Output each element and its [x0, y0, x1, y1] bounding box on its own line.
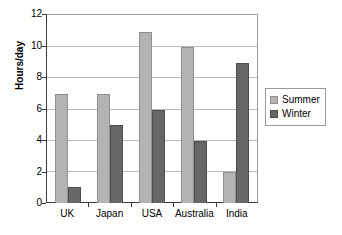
bar-japan-summer	[97, 94, 110, 203]
bar-group	[89, 15, 131, 203]
y-axis-tick-marks	[0, 14, 46, 203]
bar-group	[47, 15, 89, 203]
x-axis-label-usa: USA	[131, 208, 173, 219]
bar-usa-summer	[139, 32, 152, 203]
chart-legend: SummerWinter	[265, 88, 326, 126]
x-axis-tick-mark	[173, 203, 174, 207]
x-axis-tick-mark	[216, 203, 217, 207]
x-axis-tick-mark	[131, 203, 132, 207]
x-axis-tick-labels: UKJapanUSAAustraliaIndia	[46, 208, 258, 224]
bar-india-summer	[223, 172, 236, 203]
bar-uk-summer	[55, 94, 68, 203]
bar-group	[215, 15, 257, 203]
x-axis-tick-mark	[88, 203, 89, 207]
bar-usa-winter	[152, 110, 165, 204]
legend-label: Summer	[282, 95, 320, 105]
legend-item-summer: Summer	[270, 93, 320, 107]
bar-japan-winter	[110, 125, 123, 203]
summer-swatch	[270, 96, 278, 104]
bars-layer	[47, 15, 257, 203]
legend-item-winter: Winter	[270, 107, 320, 121]
legend-label: Winter	[282, 109, 311, 119]
winter-swatch	[270, 110, 278, 118]
bar-australia-summer	[181, 47, 194, 203]
x-axis-label-india: India	[216, 208, 258, 219]
bar-group	[131, 15, 173, 203]
x-axis-label-uk: UK	[46, 208, 88, 219]
bar-india-winter	[236, 63, 249, 203]
bar-australia-winter	[194, 141, 207, 203]
bar-chart-figure: Hours/day 121086420 UKJapanUSAAustraliaI…	[0, 0, 342, 235]
x-axis-label-australia: Australia	[173, 208, 215, 219]
x-axis-label-japan: Japan	[88, 208, 130, 219]
bar-group	[173, 15, 215, 203]
bar-uk-winter	[68, 187, 81, 203]
